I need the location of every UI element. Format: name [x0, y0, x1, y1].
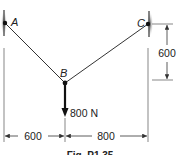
- cable-bc: [65, 24, 148, 83]
- dimension-horizontal-left: 600: [5, 130, 64, 142]
- label-b: B: [60, 67, 67, 79]
- load-arrow-icon: [62, 84, 69, 117]
- label-a: A: [10, 16, 18, 28]
- dim-label-600-vertical: 600: [158, 47, 176, 59]
- joint-a: [3, 21, 7, 25]
- truss-diagram: A C B 800 N 600 800 600 Fig. P1.35: [0, 0, 179, 155]
- load-label: 800 N: [70, 107, 98, 119]
- dim-label-600-horizontal: 600: [24, 130, 42, 142]
- figure-caption: Fig. P1.35: [67, 150, 114, 155]
- joint-c: [146, 22, 150, 26]
- cable-ab: [5, 23, 65, 83]
- dimension-horizontal-right: 800: [66, 130, 147, 142]
- label-c: C: [137, 17, 145, 29]
- dim-label-800: 800: [97, 130, 115, 142]
- dimension-vertical-right: 600: [158, 25, 176, 79]
